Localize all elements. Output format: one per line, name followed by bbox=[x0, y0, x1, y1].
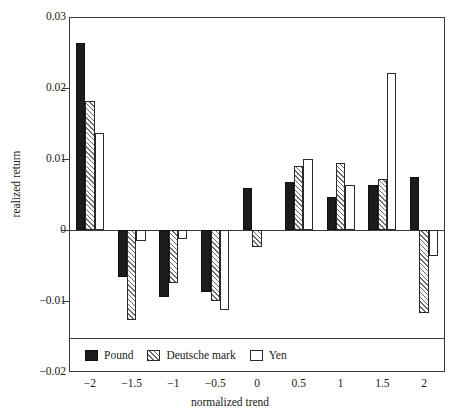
y-tick-label: 0 bbox=[6, 224, 66, 236]
bar-yen-2 bbox=[429, 230, 438, 256]
y-tick-mark bbox=[62, 230, 70, 231]
y-tick-mark bbox=[62, 88, 70, 89]
bar-yen-1.5 bbox=[387, 73, 396, 230]
white-outline-swatch-icon bbox=[250, 350, 263, 361]
bar-deutsche-mark-1 bbox=[336, 163, 345, 230]
solid-black-swatch-icon bbox=[85, 350, 98, 361]
y-tick-label: 0.01 bbox=[6, 153, 66, 165]
y-tick-label: 0.02 bbox=[6, 82, 66, 94]
legend-item-deutsche-mark: Deutsche mark bbox=[147, 350, 235, 362]
legend-item-yen: Yen bbox=[250, 350, 287, 362]
y-tick-label: −0.02 bbox=[6, 366, 66, 378]
bar-deutsche-mark--1 bbox=[169, 230, 178, 283]
legend-label-yen: Yen bbox=[269, 350, 287, 362]
bar-yen--1.5 bbox=[136, 230, 145, 241]
legend-label-pound: Pound bbox=[104, 350, 133, 362]
bar-pound--1 bbox=[159, 230, 168, 297]
bar-yen-1 bbox=[345, 185, 354, 230]
x-tick-label: −1.5 bbox=[112, 378, 152, 390]
x-axis-title: normalized trend bbox=[0, 396, 460, 408]
legend-item-pound: Pound bbox=[85, 350, 133, 362]
bar-pound--0.5 bbox=[201, 230, 210, 292]
bar-deutsche-mark-0 bbox=[252, 230, 261, 247]
bar-pound-1.5 bbox=[368, 185, 377, 230]
bar-pound-0.5 bbox=[285, 182, 294, 230]
bar-yen-0.5 bbox=[303, 159, 312, 230]
bar-pound--2 bbox=[76, 43, 85, 230]
bar-yen--2 bbox=[95, 133, 104, 230]
x-tick-label: −0.5 bbox=[195, 378, 235, 390]
bar-pound-2 bbox=[410, 177, 419, 230]
bar-yen--0.5 bbox=[220, 230, 229, 310]
bar-deutsche-mark-1.5 bbox=[378, 179, 387, 230]
bar-chart-figure: realized return 0.030.020.010−0.01−0.02 … bbox=[0, 0, 460, 419]
legend-label-deutsche-mark: Deutsche mark bbox=[166, 350, 235, 362]
legend: Pound Deutsche mark Yen bbox=[69, 338, 445, 372]
bar-pound--1.5 bbox=[118, 230, 127, 277]
bar-deutsche-mark--1.5 bbox=[127, 230, 136, 320]
y-tick-mark bbox=[62, 159, 70, 160]
x-tick-label: −2 bbox=[70, 378, 110, 390]
x-tick-label: 1 bbox=[321, 378, 361, 390]
x-tick-label: 0 bbox=[237, 378, 277, 390]
x-tick-label: 0.5 bbox=[279, 378, 319, 390]
bar-yen--1 bbox=[178, 230, 187, 239]
bar-deutsche-mark-2 bbox=[419, 230, 428, 313]
hatched-swatch-icon bbox=[147, 350, 160, 361]
bar-deutsche-mark--0.5 bbox=[211, 230, 220, 301]
y-tick-label: 0.03 bbox=[6, 11, 66, 23]
y-tick-label: −0.01 bbox=[6, 295, 66, 307]
x-tick-label: −1 bbox=[153, 378, 193, 390]
y-tick-mark bbox=[62, 301, 70, 302]
bar-deutsche-mark--2 bbox=[85, 101, 94, 230]
bar-deutsche-mark-0.5 bbox=[294, 166, 303, 230]
y-axis-tick-labels: 0.030.020.010−0.01−0.02 bbox=[0, 0, 66, 419]
x-tick-label: 1.5 bbox=[362, 378, 402, 390]
bar-pound-1 bbox=[327, 197, 336, 230]
x-tick-label: 2 bbox=[404, 378, 444, 390]
bar-pound-0 bbox=[243, 188, 252, 230]
